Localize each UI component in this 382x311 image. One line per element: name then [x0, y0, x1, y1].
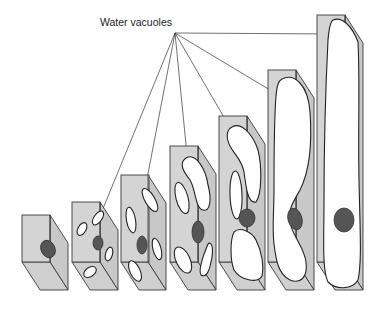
cell-stage-5: [219, 116, 265, 290]
nucleus: [93, 236, 103, 250]
cell-stage-7: [317, 15, 363, 290]
cell-stage-3: [121, 175, 166, 290]
nucleus: [137, 236, 147, 254]
cell-stage-4: [170, 146, 216, 290]
nucleus: [334, 208, 354, 232]
cell-elongation-diagram: [0, 0, 382, 311]
nucleus: [239, 209, 255, 227]
cell-stage-6: [268, 70, 314, 290]
cell-stage-1: [22, 215, 68, 290]
nucleus: [192, 221, 204, 243]
cell-stage-2: [72, 202, 118, 290]
